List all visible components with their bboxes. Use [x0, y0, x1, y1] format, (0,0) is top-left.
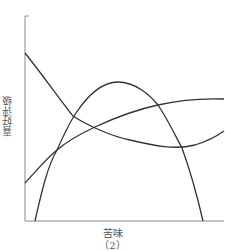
curves: [25, 53, 224, 221]
figure-caption: （2）: [0, 237, 225, 251]
curve-rising: [25, 99, 224, 183]
curve-inverted-u: [35, 82, 203, 221]
y-axis-label: 喜好评级: [2, 96, 16, 136]
chart-canvas: [0, 0, 225, 251]
axes: [25, 16, 224, 221]
